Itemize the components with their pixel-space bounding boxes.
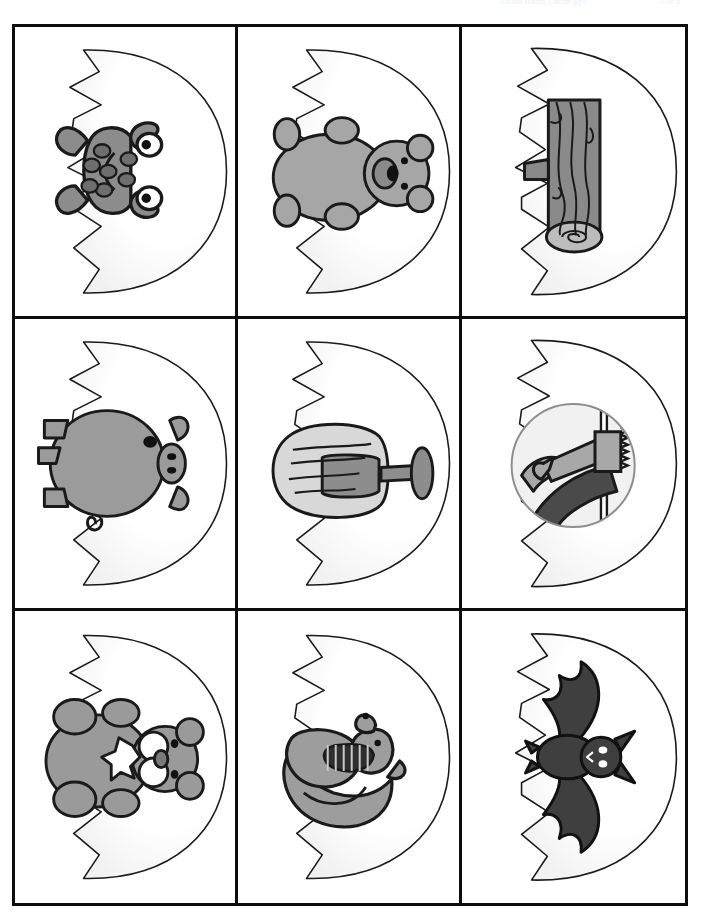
header-middle-text: Eggs xyxy=(568,0,586,5)
egg-card-frog[interactable] xyxy=(15,27,238,319)
cracked-egg-shell-outline xyxy=(238,611,458,903)
cracked-egg-shell-outline xyxy=(238,319,458,608)
egg-card-hand-with-wrench[interactable] xyxy=(462,319,685,611)
header-right-text: 1 of 3 xyxy=(660,0,680,5)
egg-card-squirrel[interactable] xyxy=(238,611,461,903)
header-left-text: Sound Match Cards xyxy=(500,0,569,5)
egg-card-pig[interactable] xyxy=(15,319,238,611)
cracked-egg-shell-outline xyxy=(15,319,235,608)
cracked-egg-shell-outline xyxy=(15,611,235,903)
egg-card-bear[interactable] xyxy=(238,27,461,319)
cracked-egg-shell-outline xyxy=(462,319,685,608)
cracked-egg-shell-outline xyxy=(238,27,458,316)
egg-card-mop[interactable] xyxy=(238,319,461,611)
egg-card-teddy-bear[interactable] xyxy=(15,611,238,903)
egg-card-log[interactable] xyxy=(462,27,685,319)
page-header: Sound Match Cards Eggs 1 of 3 xyxy=(0,0,701,16)
cracked-egg-shell-outline xyxy=(462,611,685,903)
cracked-egg-shell-outline xyxy=(462,27,685,316)
card-grid xyxy=(12,24,688,906)
cracked-egg-shell-outline xyxy=(15,27,235,316)
egg-card-bat[interactable] xyxy=(462,611,685,903)
